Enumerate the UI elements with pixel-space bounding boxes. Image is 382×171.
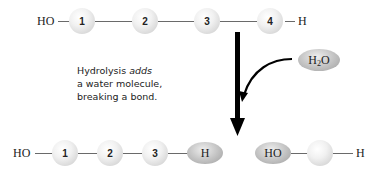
caption-line-2: a water molecule, xyxy=(77,77,162,90)
bond-3-h xyxy=(168,153,188,154)
top-monomer-2: 2 xyxy=(132,8,158,34)
caption-line-3: breaking a bond. xyxy=(77,90,162,103)
bond-ho-monomer xyxy=(291,153,308,154)
monomer-number: 2 xyxy=(142,16,148,27)
added-hydroxyl-group: HO xyxy=(255,142,291,164)
bond-1-2 xyxy=(78,153,97,154)
bond-1-2 xyxy=(95,21,132,22)
added-hydrogen-group: H xyxy=(187,142,223,164)
top-monomer-1: 1 xyxy=(69,8,95,34)
bond-2-3 xyxy=(158,21,194,22)
bottom-monomer-1: 1 xyxy=(52,140,78,166)
caption-line-1: Hydrolysis adds xyxy=(77,64,162,77)
monomer-number: 1 xyxy=(79,16,85,27)
bond-3-4 xyxy=(220,21,257,22)
water-formula: H2O xyxy=(308,53,329,68)
top-monomer-4: 4 xyxy=(257,8,283,34)
bond-4-h xyxy=(285,21,295,22)
monomer-number: 3 xyxy=(152,148,158,159)
bottom-monomer-3: 3 xyxy=(142,140,168,166)
top-hydrogen-end-label: H xyxy=(298,14,307,28)
monomer-number: 4 xyxy=(267,16,273,27)
monomer-number: 1 xyxy=(62,148,68,159)
top-hydroxyl-end-label: HO xyxy=(37,14,54,28)
bottom-hydroxyl-end-label: HO xyxy=(13,146,30,160)
hydrolysis-caption: Hydrolysis adds a water molecule, breaki… xyxy=(77,64,162,103)
bottom-monomer-2: 2 xyxy=(97,140,123,166)
bond-2-3 xyxy=(123,153,142,154)
bond-ho-1 xyxy=(35,153,53,154)
monomer-number: 2 xyxy=(107,148,113,159)
water-molecule: H2O xyxy=(298,49,340,71)
water-curved-arrow-icon xyxy=(238,55,294,105)
monomer-number: 3 xyxy=(204,16,210,27)
top-monomer-3: 3 xyxy=(194,8,220,34)
released-monomer xyxy=(307,140,333,166)
bond-monomer-h xyxy=(333,153,353,154)
bottom-right-hydrogen-label: H xyxy=(356,146,365,160)
